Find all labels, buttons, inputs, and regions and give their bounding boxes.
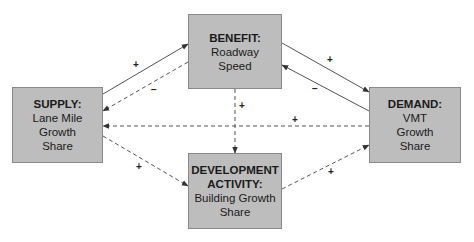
benefit-title: BENEFIT: bbox=[209, 31, 261, 45]
edge-sign-demand-to-supply: + bbox=[292, 115, 298, 125]
arrow-development-to-demand bbox=[282, 145, 369, 189]
development-node: DEVELOPMENTACTIVITY:Building GrowthShare bbox=[188, 153, 282, 229]
supply-label-line: Share bbox=[42, 139, 73, 153]
edge-sign-development-to-demand: + bbox=[328, 167, 334, 177]
edge-sign-benefit-to-development: + bbox=[239, 101, 245, 111]
arrow-demand-to-benefit bbox=[282, 65, 369, 111]
development-title: DEVELOPMENT bbox=[191, 163, 279, 177]
benefit-label-line: Roadway bbox=[211, 45, 259, 59]
demand-label-line: Share bbox=[400, 139, 431, 153]
development-title: ACTIVITY: bbox=[207, 177, 262, 191]
benefit-node: BENEFIT:RoadwaySpeed bbox=[188, 14, 282, 89]
development-label-line: Share bbox=[220, 205, 251, 219]
supply-node: SUPPLY:Lane MileGrowthShare bbox=[12, 87, 103, 163]
edge-sign-benefit-to-demand: + bbox=[327, 55, 333, 65]
supply-label-line: Growth bbox=[39, 125, 76, 139]
development-label-line: Building Growth bbox=[194, 191, 275, 205]
benefit-label-line: Speed bbox=[218, 59, 251, 73]
supply-title: SUPPLY: bbox=[34, 97, 82, 111]
demand-node: DEMAND:VMTGrowthShare bbox=[369, 87, 461, 163]
edge-sign-benefit-to-supply: − bbox=[151, 85, 157, 95]
supply-label-line: Lane Mile bbox=[33, 111, 83, 125]
demand-label-line: VMT bbox=[403, 111, 427, 125]
edge-sign-demand-to-benefit: − bbox=[312, 84, 318, 94]
arrow-benefit-to-demand bbox=[282, 43, 369, 92]
edge-sign-supply-to-benefit: + bbox=[133, 60, 139, 70]
edge-sign-supply-to-development: + bbox=[136, 162, 142, 172]
demand-title: DEMAND: bbox=[388, 97, 442, 111]
arrow-supply-to-development bbox=[103, 136, 188, 186]
demand-label-line: Growth bbox=[396, 125, 433, 139]
